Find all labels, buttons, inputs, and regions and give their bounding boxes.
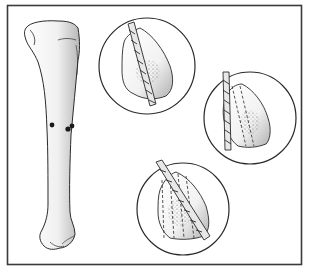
inset-2 bbox=[204, 72, 296, 164]
drill-marker bbox=[65, 126, 70, 131]
medical-illustration bbox=[0, 0, 310, 270]
drill-marker bbox=[50, 123, 55, 128]
inset-1 bbox=[99, 18, 195, 114]
drill-marker bbox=[70, 124, 75, 129]
